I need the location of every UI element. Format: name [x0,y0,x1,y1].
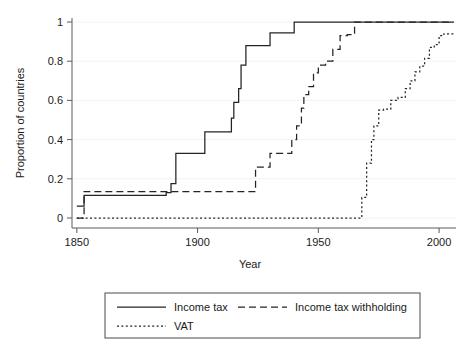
x-tick-label: 1850 [65,236,89,248]
legend-label-income-tax: Income tax [174,301,228,313]
y-axis-label: Proportion of countries [14,67,26,178]
y-tick-label: 0.6 [48,94,63,106]
legend-label-income-tax-withholding: Income tax withholding [295,301,407,313]
y-tick-label: 1 [57,16,63,28]
x-tick-label: 1900 [185,236,209,248]
legend-label-vat: VAT [174,320,194,332]
y-tick-label: 0.4 [48,134,63,146]
y-tick-label: 0.8 [48,55,63,67]
chart-figure: 00.20.40.60.81 1850190019502000 Proporti… [0,0,463,351]
y-tick-label: 0.2 [48,173,63,185]
y-tick-label: 0 [57,212,63,224]
figure-background [0,0,463,351]
x-axis-label: Year [239,258,262,270]
chart-svg: 00.20.40.60.81 1850190019502000 Proporti… [0,0,463,351]
x-tick-label: 1950 [306,236,330,248]
x-tick-label: 2000 [427,236,451,248]
